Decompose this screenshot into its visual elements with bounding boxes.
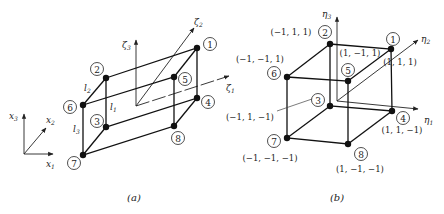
axis-label-x1: x1 xyxy=(46,159,55,170)
node-label-7: 7 xyxy=(268,135,281,148)
svg-text:7: 7 xyxy=(271,137,277,147)
svg-text:4: 4 xyxy=(400,114,406,124)
svg-text:6: 6 xyxy=(271,69,277,79)
length-label-l1: l1 xyxy=(110,102,117,113)
global-axes: x3 x2 x1 xyxy=(9,111,55,170)
length-label-l2: l2 xyxy=(84,83,91,94)
svg-text:4: 4 xyxy=(205,98,211,108)
svg-text:8: 8 xyxy=(358,150,364,160)
caption-b: (b) xyxy=(330,192,344,203)
node-label-2: 2 xyxy=(91,63,104,76)
axis-label-eta1: η1 xyxy=(424,115,433,126)
coord-node-5: (1, −1, 1) xyxy=(340,48,381,58)
node-label-8: 8 xyxy=(355,148,368,161)
svg-text:2: 2 xyxy=(94,65,100,75)
node-label-4: 4 xyxy=(202,96,215,109)
node-label-4: 4 xyxy=(397,112,410,125)
svg-text:6: 6 xyxy=(67,103,73,113)
leader-line-node-3 xyxy=(277,99,312,111)
coord-node-4: (1, 1, −1) xyxy=(382,125,423,135)
axis-label-x2: x2 xyxy=(46,115,55,126)
svg-text:8: 8 xyxy=(175,134,181,144)
svg-text:2: 2 xyxy=(322,28,328,38)
length-label-l3: l3 xyxy=(73,124,80,135)
coord-node-8: (1, −1, −1) xyxy=(336,164,384,174)
axis-label-eta2: η2 xyxy=(421,34,430,45)
axis-label-zeta2: ζ2 xyxy=(194,17,203,28)
node-label-6: 6 xyxy=(268,67,281,80)
node-label-2: 2 xyxy=(319,26,332,39)
node-label-1: 1 xyxy=(387,33,400,46)
cube-edges xyxy=(287,44,392,144)
node-label-1: 1 xyxy=(204,38,217,51)
node-label-7: 7 xyxy=(68,157,81,170)
axis-label-eta3: η3 xyxy=(322,9,331,20)
panel-b: η3 η2 η1 1 2 xyxy=(226,9,433,203)
svg-text:1: 1 xyxy=(207,40,213,50)
panel-a: x3 x2 x1 ζ3 ζ2 ζ1 l2 l1 l3 xyxy=(9,17,235,203)
node-label-8: 8 xyxy=(172,132,185,145)
axis-label-x3: x3 xyxy=(9,111,18,122)
caption-a: (a) xyxy=(127,192,141,203)
svg-text:7: 7 xyxy=(71,159,77,169)
node-label-5: 5 xyxy=(179,73,192,86)
coord-node-7: (−1, −1, −1) xyxy=(242,153,297,163)
node-label-3: 3 xyxy=(91,115,104,128)
svg-text:3: 3 xyxy=(315,96,321,106)
node-label-6: 6 xyxy=(64,101,77,114)
node-label-5: 5 xyxy=(342,64,355,77)
hexahedral-element-diagram: x3 x2 x1 ζ3 ζ2 ζ1 l2 l1 l3 xyxy=(0,0,444,214)
axis-label-zeta3: ζ3 xyxy=(122,40,131,51)
coord-node-2: (−1, 1, 1) xyxy=(271,27,312,37)
node-label-3: 3 xyxy=(312,94,325,107)
coord-node-1: (1, 1, 1) xyxy=(383,57,417,67)
svg-text:5: 5 xyxy=(345,66,351,76)
natural-axes: η3 η2 η1 xyxy=(322,9,433,126)
svg-text:3: 3 xyxy=(94,117,100,127)
coord-node-6: (−1, −1, 1) xyxy=(236,54,284,64)
local-axes: ζ3 ζ2 ζ1 xyxy=(122,17,235,106)
coord-node-3: (−1, 1, −1) xyxy=(226,112,274,122)
svg-text:1: 1 xyxy=(390,35,396,45)
svg-text:5: 5 xyxy=(182,75,188,85)
axis-label-zeta1: ζ1 xyxy=(226,83,235,94)
